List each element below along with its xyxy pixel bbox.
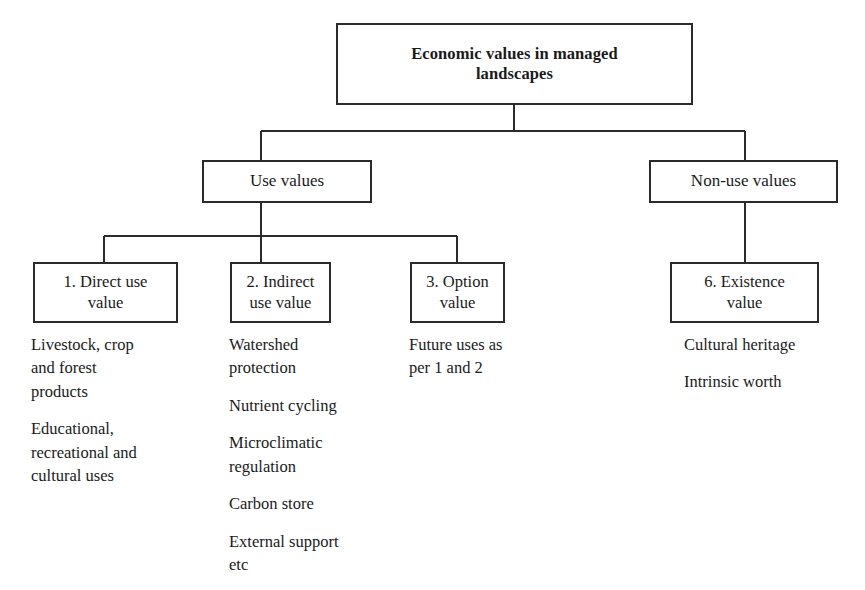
node-use-values-label: Use values bbox=[244, 171, 330, 192]
node-direct-use-value-label: 1. Direct use value bbox=[58, 272, 154, 312]
note-item: Cultural heritage bbox=[684, 333, 854, 356]
note-item: Nutrient cycling bbox=[229, 394, 394, 417]
node-option-value: 3. Option value bbox=[410, 262, 505, 323]
node-indirect-use-value-label: 2. Indirect use value bbox=[241, 272, 321, 312]
node-economic-values-label: Economic values in managed landscapes bbox=[405, 44, 624, 84]
node-option-value-label: 3. Option value bbox=[420, 272, 494, 312]
diagram-canvas: Economic values in managed landscapes Us… bbox=[0, 0, 865, 590]
note-item: Educational, recreational and cultural u… bbox=[31, 417, 201, 487]
notes-option-value: Future uses as per 1 and 2 bbox=[409, 333, 569, 380]
note-item: Microclimatic regulation bbox=[229, 431, 394, 478]
node-non-use-values-label: Non-use values bbox=[685, 171, 802, 192]
note-item: Carbon store bbox=[229, 492, 394, 515]
node-indirect-use-value: 2. Indirect use value bbox=[230, 262, 331, 323]
notes-existence-value: Cultural heritage Intrinsic worth bbox=[684, 333, 854, 394]
note-item: External support etc bbox=[229, 530, 394, 577]
node-direct-use-value: 1. Direct use value bbox=[33, 262, 178, 323]
note-item: Intrinsic worth bbox=[684, 370, 854, 393]
node-economic-values: Economic values in managed landscapes bbox=[336, 23, 693, 105]
node-existence-value-label: 6. Existence value bbox=[698, 272, 791, 312]
notes-direct-use-value: Livestock, crop and forest products Educ… bbox=[31, 333, 201, 488]
node-use-values: Use values bbox=[202, 160, 372, 203]
node-existence-value: 6. Existence value bbox=[670, 262, 819, 323]
note-item: Livestock, crop and forest products bbox=[31, 333, 201, 403]
note-item: Watershed protection bbox=[229, 333, 394, 380]
notes-indirect-use-value: Watershed protection Nutrient cycling Mi… bbox=[229, 333, 394, 576]
node-non-use-values: Non-use values bbox=[649, 160, 838, 203]
note-item: Future uses as per 1 and 2 bbox=[409, 333, 569, 380]
